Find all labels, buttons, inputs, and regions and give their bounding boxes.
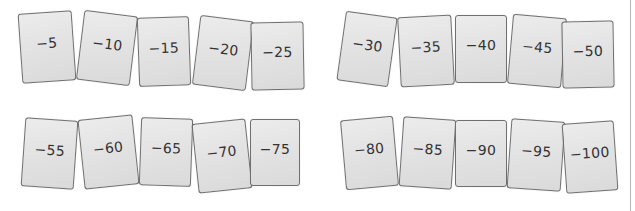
card-minus-55: −55 — [21, 117, 79, 190]
card-label: −25 — [262, 44, 293, 61]
card-minus-100: −100 — [562, 120, 619, 193]
right-border-line — [630, 0, 631, 211]
card-label: −60 — [92, 138, 124, 157]
card-label: −15 — [148, 39, 179, 56]
card-minus-90: −90 — [455, 120, 507, 187]
card-minus-5: −5 — [18, 10, 77, 84]
card-minus-15: −15 — [137, 16, 191, 87]
card-minus-35: −35 — [397, 15, 455, 88]
card-label: −80 — [353, 140, 385, 159]
card-label: −75 — [260, 141, 290, 157]
card-label: −100 — [569, 144, 610, 163]
card-minus-95: −95 — [507, 118, 566, 192]
card-minus-40: −40 — [455, 15, 507, 83]
card-label: −10 — [91, 34, 123, 54]
number-cards-canvas: −5 −10 −15 −20 −25 −30 −35 −40 −45 −50 −… — [0, 0, 635, 211]
card-label: −50 — [573, 42, 604, 59]
card-label: −85 — [412, 140, 443, 158]
card-minus-75: −75 — [250, 119, 300, 186]
card-label: −45 — [521, 38, 553, 57]
card-minus-60: −60 — [77, 114, 139, 189]
card-label: −90 — [466, 142, 496, 158]
card-label: −95 — [521, 142, 552, 160]
card-minus-10: −10 — [76, 10, 138, 86]
card-minus-45: −45 — [507, 14, 567, 88]
card-label: −40 — [466, 37, 496, 53]
card-minus-85: −85 — [399, 116, 457, 190]
card-minus-65: −65 — [139, 117, 193, 187]
card-minus-20: −20 — [192, 15, 254, 91]
card-label: −70 — [206, 142, 238, 161]
card-minus-50: −50 — [561, 21, 614, 89]
card-minus-70: −70 — [191, 118, 252, 193]
card-minus-30: −30 — [336, 11, 397, 88]
card-label: −20 — [207, 39, 239, 59]
card-minus-25: −25 — [250, 22, 304, 91]
card-minus-80: −80 — [340, 116, 399, 190]
card-label: −55 — [34, 140, 65, 158]
card-label: −5 — [36, 34, 58, 51]
card-label: −35 — [410, 38, 441, 56]
card-label: −65 — [151, 139, 182, 156]
card-label: −30 — [351, 35, 383, 55]
